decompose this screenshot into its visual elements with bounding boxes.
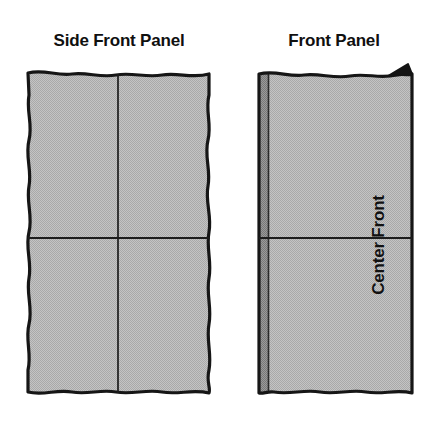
side-front-panel-fabric (24, 68, 216, 400)
front-panel (255, 64, 417, 400)
front-panel-fabric (255, 68, 417, 400)
center-front-label: Center Front (370, 195, 387, 295)
pattern-diagram: Side Front Panel Front Panel (0, 0, 428, 422)
pattern-illustration (0, 0, 428, 422)
front-panel-corner-notch-icon (388, 64, 412, 76)
side-front-panel (24, 68, 216, 400)
